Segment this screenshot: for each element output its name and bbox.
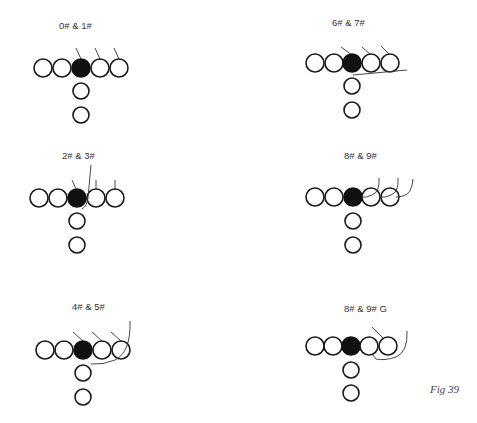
player-circle [110,59,128,77]
player-circle [75,389,91,405]
player-circle [53,59,71,77]
player-circle [324,337,342,355]
player-circle [91,59,109,77]
player-circle [379,337,397,355]
player-circle [69,213,85,229]
center-player-filled [343,54,361,72]
player-circle [306,337,324,355]
player-circle [87,189,105,207]
player-circle [49,189,67,207]
diagram-2-3 [30,165,124,253]
player-circle [344,102,360,118]
player-circle [34,59,52,77]
player-circle [345,213,361,229]
diagram-8-9-g [306,327,407,401]
formation-diagrams [0,0,477,423]
center-player-filled [342,337,360,355]
player-circle [325,188,343,206]
center-player-filled [344,188,362,206]
player-circle [343,362,359,378]
player-circle [306,188,324,206]
player-circle [73,83,89,99]
center-player-filled [68,189,86,207]
player-circle [325,54,343,72]
player-circle [106,189,124,207]
player-circle [93,341,111,359]
diagram-4-5 [36,321,130,405]
player-circle [55,341,73,359]
player-circle [362,54,380,72]
center-player-filled [74,341,92,359]
player-circle [360,337,378,355]
diagram-6-7 [306,46,407,118]
player-circle [73,107,89,123]
player-circle [36,341,54,359]
diagram-0-1 [34,48,128,123]
player-circle [30,189,48,207]
player-circle [306,54,324,72]
player-circle [343,385,359,401]
player-circle [69,237,85,253]
player-circle [344,78,360,94]
player-circle [345,237,361,253]
figure-canvas: 0# & 1# 6# & 7# 2# & 3# 8# & 9# 4# & 5# … [0,0,477,423]
player-circle [381,54,399,72]
diagram-8-9 [306,178,413,253]
player-circle [75,365,91,381]
center-player-filled [72,59,90,77]
